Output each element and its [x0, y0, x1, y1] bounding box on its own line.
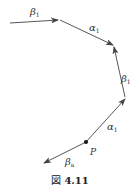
- arrow-beta1-top: [10, 20, 58, 23]
- arrow-alpha1-lower: [86, 99, 125, 142]
- label-alpha1-lower: α1: [107, 121, 118, 133]
- label-beta-a: βa: [64, 156, 75, 168]
- caption-prefix: 図: [51, 175, 61, 186]
- figure-caption: 図 4.11: [0, 172, 140, 187]
- arrow-beta1-right: [114, 47, 125, 97]
- vector-path-diagram: β1 α1 β1 α1 βa P: [0, 0, 140, 194]
- label-point-p: P: [89, 147, 97, 157]
- label-beta1-right: β1: [120, 73, 131, 85]
- label-beta1-top: β1: [29, 6, 40, 18]
- label-alpha1-upper: α1: [89, 22, 100, 34]
- point-p: [84, 140, 88, 144]
- arrow-alpha1-upper: [60, 20, 113, 45]
- caption-number: 4.11: [64, 175, 88, 186]
